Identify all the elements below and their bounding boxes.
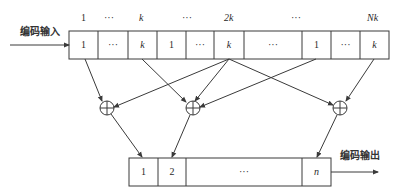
index-label: 2k xyxy=(224,12,233,24)
index-label: 1 xyxy=(81,12,86,24)
index-label: k xyxy=(139,12,143,24)
index-label: Nk xyxy=(367,12,378,24)
index-label: ··· xyxy=(104,12,114,24)
register-cell: 1 xyxy=(157,31,186,59)
input-label: 编码输入 xyxy=(20,26,60,38)
xor-node-1 xyxy=(100,101,114,115)
register-cell: 1 xyxy=(69,31,98,59)
register-cell: ··· xyxy=(186,31,214,59)
output-cell: 1 xyxy=(129,158,158,186)
register-cell: k xyxy=(128,31,157,59)
output-label: 编码输出 xyxy=(340,150,380,162)
index-label: ··· xyxy=(182,12,192,24)
register-cell: k xyxy=(214,31,244,59)
xor-node-2 xyxy=(186,101,200,115)
register-cell: k xyxy=(360,31,389,59)
index-label: ··· xyxy=(291,12,301,24)
register-cell: 1 xyxy=(302,31,331,59)
output-cell: 2 xyxy=(158,158,186,186)
output-cell: ··· xyxy=(186,158,302,186)
register-cell: ··· xyxy=(98,31,128,59)
register-cell: ··· xyxy=(244,31,302,59)
output-cell: n xyxy=(302,158,331,186)
xor-node-3 xyxy=(333,101,347,115)
register-cell: ··· xyxy=(331,31,360,59)
